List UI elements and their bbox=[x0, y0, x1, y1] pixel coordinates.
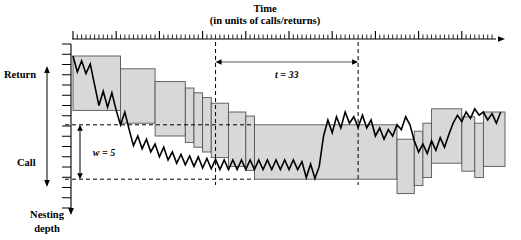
x-axis-time bbox=[72, 31, 505, 42]
window-width-label: w = 5 bbox=[93, 147, 115, 158]
nesting-window-band bbox=[155, 82, 185, 136]
nesting-window-band bbox=[229, 112, 246, 166]
nesting-window-band bbox=[397, 139, 414, 193]
nesting-window-band bbox=[423, 123, 432, 177]
nesting-window-band bbox=[254, 125, 397, 179]
nesting-window-band bbox=[246, 116, 255, 170]
chart-title-line1: Time bbox=[253, 3, 276, 14]
nesting-window-band bbox=[185, 88, 194, 142]
nesting-window-band bbox=[211, 103, 228, 157]
y-axis-caption-line2: depth bbox=[34, 223, 60, 234]
chart-title-line2: (in units of calls/returns) bbox=[210, 15, 321, 27]
call-return-trace-diagram: Time (in units of calls/returns) Return … bbox=[0, 0, 521, 240]
y-axis-caption-line1: Nesting bbox=[30, 209, 65, 220]
y-axis-nesting-depth bbox=[62, 44, 74, 215]
nesting-window-band bbox=[414, 131, 423, 185]
y-axis-label-call: Call bbox=[17, 157, 36, 168]
nesting-window-band bbox=[194, 93, 203, 147]
y-axis-label-return: Return bbox=[4, 69, 36, 80]
nesting-window-band bbox=[462, 117, 475, 171]
time-interval-label: t = 33 bbox=[275, 69, 298, 80]
call-return-direction-arrow bbox=[44, 66, 50, 187]
figure-root: Time (in units of calls/returns) Return … bbox=[0, 0, 521, 240]
nesting-window-band bbox=[475, 123, 484, 177]
